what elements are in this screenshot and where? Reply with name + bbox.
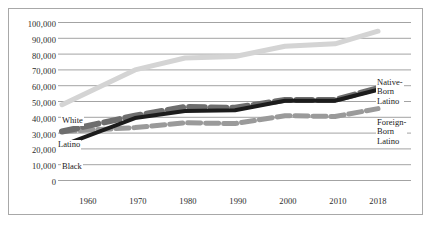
y-tick-label-50000: 50,000 [10, 98, 56, 108]
y-tick-label-100000: 100,000 [10, 19, 56, 29]
y-tick-label-40000: 40,000 [10, 114, 56, 124]
y-tick-label-20000: 20,000 [10, 145, 56, 155]
foreign-born-latino-line3: Latino [377, 137, 406, 146]
series-label-native-born-latino: Native- Born Latino [376, 78, 404, 106]
x-tick-label-1960: 1960 [68, 196, 108, 206]
y-tick-label-0: 0 [10, 177, 56, 187]
series-label-foreign-born-latino: Foreign- Born Latino [376, 118, 407, 146]
series-label-latino: Latino [57, 140, 81, 150]
gridline-group [58, 23, 411, 181]
y-tick-label-10000: 10,000 [10, 161, 56, 171]
y-tick-label-60000: 60,000 [10, 82, 56, 92]
y-tick-label-80000: 80,000 [10, 51, 56, 61]
x-tick-label-2000: 2000 [268, 196, 308, 206]
native-born-latino-line3: Latino [377, 97, 403, 106]
x-tick-label-2018: 2018 [358, 196, 398, 206]
x-tick-label-2010: 2010 [318, 196, 358, 206]
chart-figure: 100,000 90,000 80,000 70,000 60,000 50,0… [0, 0, 433, 232]
series-path-white [62, 31, 378, 105]
y-tick-label-30000: 30,000 [10, 130, 56, 140]
series-label-black: Black [61, 162, 83, 172]
series-label-white: White [61, 116, 84, 126]
x-tick-label-1990: 1990 [218, 196, 258, 206]
series-line-group [62, 31, 378, 146]
y-tick-label-90000: 90,000 [10, 35, 56, 45]
x-tick-label-1980: 1980 [168, 196, 208, 206]
x-tick-label-1970: 1970 [118, 196, 158, 206]
y-tick-label-70000: 70,000 [10, 66, 56, 76]
